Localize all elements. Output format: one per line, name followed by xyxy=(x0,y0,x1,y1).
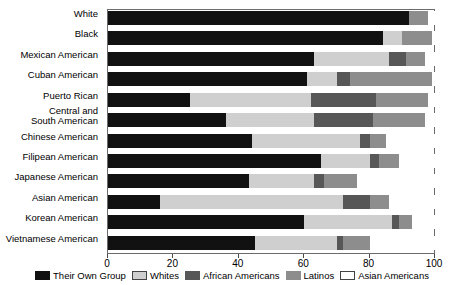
stacked-bar xyxy=(108,72,435,86)
bar-segment-afram xyxy=(343,195,369,209)
bar-segment-whites xyxy=(160,195,343,209)
bar-segment-whites xyxy=(249,174,314,188)
bar-segment-afram xyxy=(337,236,344,250)
category-label: Puerto Rican xyxy=(0,91,98,101)
bar-segment-latin xyxy=(324,174,357,188)
bar-segment-asian xyxy=(386,134,435,148)
legend-swatch-icon xyxy=(132,271,147,280)
bar-segment-latin xyxy=(343,236,369,250)
bar-segment-latin xyxy=(379,154,399,168)
bar-segment-afram xyxy=(311,93,376,107)
stacked-bar xyxy=(108,113,435,127)
bar-segment-latin xyxy=(402,31,431,45)
bar-row: Filipean American xyxy=(0,152,464,170)
category-label: Mexican American xyxy=(0,50,98,60)
legend-swatch-icon xyxy=(35,271,50,280)
legend-item: African Americans xyxy=(185,270,280,281)
stacked-bar xyxy=(108,236,435,250)
category-label: Central and South American xyxy=(0,106,98,126)
legend-label: Asian Americans xyxy=(358,270,429,281)
legend-label: African Americans xyxy=(203,270,280,281)
category-label: Filipean American xyxy=(0,152,98,162)
category-label: Korean American xyxy=(0,213,98,223)
bar-segment-asian xyxy=(399,154,435,168)
legend-label: Latinos xyxy=(304,270,335,281)
bar-segment-own xyxy=(108,93,190,107)
bar-segment-whites xyxy=(226,113,314,127)
legend-item: Latinos xyxy=(286,270,335,281)
legend-label: Their Own Group xyxy=(53,270,126,281)
bar-segment-latin xyxy=(376,93,428,107)
bar-segment-latin xyxy=(370,134,386,148)
bar-row: Chinese American xyxy=(0,132,464,150)
bar-segment-latin xyxy=(399,215,412,229)
bar-segment-afram xyxy=(314,113,373,127)
bar-segment-whites xyxy=(304,215,392,229)
bar-segment-whites xyxy=(307,72,336,86)
bar-segment-own xyxy=(108,174,249,188)
bar-segment-afram xyxy=(370,154,380,168)
bar-segment-own xyxy=(108,154,321,168)
legend-item: Their Own Group xyxy=(35,270,126,281)
stacked-bar-chart: WhiteBlackMexican AmericanCuban American… xyxy=(0,0,464,285)
bar-segment-latin xyxy=(373,113,425,127)
bar-segment-whites xyxy=(383,31,403,45)
bar-segment-afram xyxy=(360,134,370,148)
stacked-bar xyxy=(108,93,435,107)
legend-swatch-icon xyxy=(185,271,200,280)
bar-row: Cuban American xyxy=(0,70,464,88)
stacked-bar xyxy=(108,215,435,229)
stacked-bar xyxy=(108,195,435,209)
legend-item: Asian Americans xyxy=(340,270,429,281)
bar-segment-asian xyxy=(428,93,435,107)
bar-segment-asian xyxy=(428,11,435,25)
bar-segment-own xyxy=(108,215,304,229)
category-label: Black xyxy=(0,29,98,39)
category-label: White xyxy=(0,9,98,19)
stacked-bar xyxy=(108,154,435,168)
bar-segment-asian xyxy=(432,72,435,86)
legend-swatch-icon xyxy=(340,271,355,280)
category-label: Cuban American xyxy=(0,70,98,80)
category-label: Asian American xyxy=(0,193,98,203)
bar-segment-own xyxy=(108,11,409,25)
category-label: Japanese American xyxy=(0,172,98,182)
legend-label: Whites xyxy=(150,270,179,281)
bar-segment-latin xyxy=(350,72,432,86)
stacked-bar xyxy=(108,134,435,148)
bar-segment-own xyxy=(108,52,314,66)
bar-segment-asian xyxy=(370,236,435,250)
bar-segment-asian xyxy=(357,174,435,188)
bar-segment-own xyxy=(108,195,160,209)
chart-legend: Their Own GroupWhitesAfrican AmericansLa… xyxy=(0,268,464,283)
bar-segment-afram xyxy=(314,174,324,188)
bar-segment-latin xyxy=(370,195,390,209)
category-label: Vietnamese American xyxy=(0,234,98,244)
bar-row: Mexican American xyxy=(0,50,464,68)
bar-segment-asian xyxy=(432,31,435,45)
legend-swatch-icon xyxy=(286,271,301,280)
bar-segment-asian xyxy=(389,195,435,209)
bar-segment-asian xyxy=(412,215,435,229)
bar-row: Central and South American xyxy=(0,111,464,129)
category-label: Chinese American xyxy=(0,132,98,142)
bar-rows-container: WhiteBlackMexican AmericanCuban American… xyxy=(0,9,464,254)
bar-segment-afram xyxy=(337,72,350,86)
bar-row: Korean American xyxy=(0,213,464,231)
bar-segment-whites xyxy=(190,93,311,107)
bar-segment-asian xyxy=(425,113,435,127)
stacked-bar xyxy=(108,11,435,25)
bar-segment-whites xyxy=(255,236,337,250)
bar-row: White xyxy=(0,9,464,27)
bar-row: Black xyxy=(0,29,464,47)
bar-segment-own xyxy=(108,72,307,86)
bar-segment-own xyxy=(108,113,226,127)
bar-segment-whites xyxy=(314,52,389,66)
bar-row: Asian American xyxy=(0,193,464,211)
stacked-bar xyxy=(108,31,435,45)
bar-segment-whites xyxy=(252,134,360,148)
bar-segment-own xyxy=(108,31,383,45)
bar-segment-asian xyxy=(425,52,435,66)
bar-segment-own xyxy=(108,134,252,148)
bar-segment-latin xyxy=(409,11,429,25)
